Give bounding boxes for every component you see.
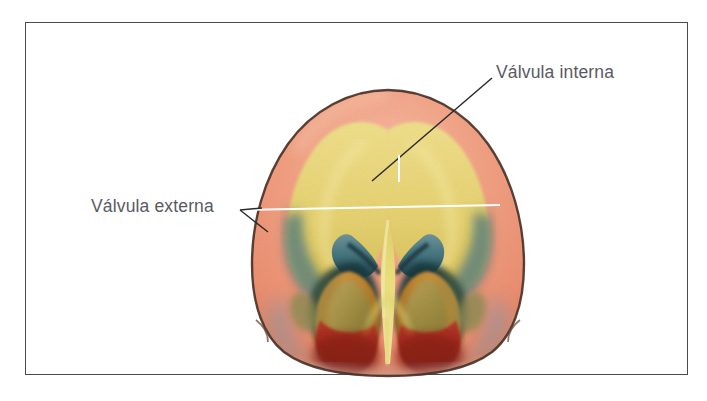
label-valvula-externa: Válvula externa (91, 196, 214, 217)
nose-anatomy-illustration (216, 68, 561, 378)
figure-root: Válvula interna Válvula externa (0, 0, 707, 401)
label-valvula-interna: Válvula interna (496, 62, 614, 83)
